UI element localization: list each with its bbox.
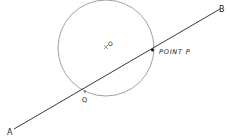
label-q: Q xyxy=(82,96,87,104)
label-a: A xyxy=(7,128,13,136)
point-q-dot xyxy=(84,90,86,92)
label-b: B xyxy=(219,5,225,14)
line-ab xyxy=(14,9,220,129)
label-point-p: POINT P xyxy=(159,48,190,56)
point-p-dot xyxy=(151,49,154,52)
label-o: O xyxy=(108,40,113,47)
geometry-diagram: A B O POINT P Q xyxy=(0,0,229,136)
circle xyxy=(58,0,154,96)
